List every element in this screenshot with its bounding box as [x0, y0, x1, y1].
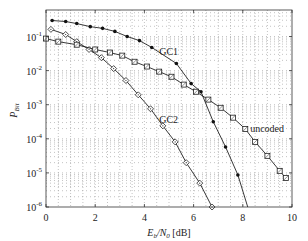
marker-point: [125, 35, 129, 39]
ber-chart: 024681010-110-210-310-410-510-6 GC1GC2un…: [0, 0, 308, 241]
x-tick-label: 6: [191, 212, 196, 223]
y-axis-title-main: P: [8, 112, 19, 119]
y-tick-label: 10-5: [26, 166, 42, 179]
series-line-gc2: [51, 29, 212, 207]
marker-point-center: [125, 80, 126, 81]
x-tick-label: 8: [240, 212, 245, 223]
y-tick-label-exp: -6: [36, 200, 42, 208]
marker-point: [75, 22, 79, 26]
marker-point-center: [150, 108, 151, 109]
marker-point: [189, 82, 193, 86]
y-tick-label-exp: -5: [36, 166, 42, 174]
marker-point: [138, 39, 142, 43]
y-tick-label-exp: -2: [36, 64, 42, 72]
marker-point: [113, 30, 117, 34]
marker-point-center: [88, 49, 89, 50]
x-axis-title-main: E: [146, 227, 153, 238]
y-tick-label-exp: -4: [36, 132, 42, 140]
x-tick-label: 2: [93, 212, 98, 223]
marker-point: [236, 173, 240, 177]
y-tick-label-base: 10: [26, 202, 36, 213]
x-tick-label: 10: [287, 212, 297, 223]
x-axis-title-unit: [dB]: [170, 227, 191, 238]
marker-point: [224, 145, 228, 149]
marker-point: [50, 19, 54, 23]
y-tick-label-base: 10: [26, 168, 36, 179]
y-tick-label-base: 10: [26, 100, 36, 111]
y-axis-title: PBit: [8, 102, 21, 118]
grid: [46, 10, 292, 207]
y-tick-label-exp: -3: [36, 98, 42, 106]
y-tick-label: 10-3: [26, 98, 42, 111]
y-tick-label: 10-4: [26, 132, 42, 145]
marker-point-center: [101, 57, 102, 58]
x-tick-label: 4: [142, 212, 147, 223]
y-axis-title-sub: Bit: [13, 102, 21, 111]
x-axis-title: Eb/N0 [dB]: [146, 227, 190, 240]
marker-point: [199, 90, 203, 94]
y-tick-label-base: 10: [26, 66, 36, 77]
series-line-gc1: [52, 21, 248, 207]
marker-point: [101, 27, 105, 31]
y-tick-label: 10-6: [26, 200, 42, 213]
series-line-uncoded: [46, 39, 286, 178]
marker-point: [64, 20, 68, 24]
y-tick-label: 10-1: [26, 30, 42, 43]
curve-label-uncoded: uncoded: [250, 123, 284, 134]
marker-point-center: [65, 34, 66, 35]
x-tick-label: 0: [44, 212, 49, 223]
y-tick-label-base: 10: [26, 32, 36, 43]
y-tick-label-exp: -1: [36, 30, 42, 38]
marker-point: [175, 62, 179, 66]
marker-point: [211, 120, 215, 124]
marker-point-center: [199, 183, 200, 184]
curve-labels: GC1GC2uncoded: [159, 46, 284, 134]
curve-label-gc2: GC2: [159, 114, 178, 125]
marker-point-center: [186, 162, 187, 163]
marker-point-center: [175, 141, 176, 142]
marker-point: [150, 46, 154, 50]
marker-point: [88, 25, 92, 29]
marker-point-center: [138, 94, 139, 95]
marker-point-center: [113, 68, 114, 69]
y-tick-label-base: 10: [26, 134, 36, 145]
marker-point-center: [50, 29, 51, 30]
y-tick-label: 10-2: [26, 64, 42, 77]
curve-label-gc1: GC1: [159, 46, 178, 57]
